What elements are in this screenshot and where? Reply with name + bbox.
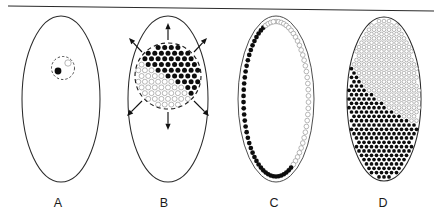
field-dot-open-928 — [405, 84, 409, 88]
field-dot-open-746 — [355, 67, 359, 71]
field-dot-open-790 — [357, 71, 361, 75]
cortical-dot-ring-c — [241, 19, 311, 179]
field-dot-filled-1520 — [355, 145, 359, 149]
field-dot-filled-1613 — [390, 153, 394, 157]
field-dot-filled-1221 — [362, 114, 366, 118]
field-dot-filled-1226 — [387, 114, 391, 118]
cluster-dot-filled-222 — [192, 85, 197, 90]
cluster-dot-filled-84 — [162, 45, 167, 50]
field-dot-filled-1442 — [395, 136, 399, 140]
field-dot-filled-1356 — [395, 127, 399, 131]
panel-d-full-pattern — [347, 17, 421, 181]
field-dot-open-920 — [365, 84, 369, 88]
cluster-dot-open-239 — [182, 91, 187, 96]
field-dot-filled-1611 — [380, 153, 384, 157]
field-dot-open-626 — [397, 54, 401, 58]
cluster-dot-filled-141 — [159, 62, 164, 67]
field-dot-open-324 — [395, 24, 399, 28]
field-dot-filled-1530 — [405, 145, 409, 149]
field-dot-open-887 — [412, 80, 416, 84]
field-dot-filled-1607 — [360, 153, 364, 157]
field-dot-open-623 — [382, 54, 386, 58]
ring-dot-open-22 — [305, 112, 310, 117]
field-dot-open-748 — [365, 67, 369, 71]
field-dot-open-627 — [402, 54, 406, 58]
field-dot-filled-1313 — [392, 123, 396, 127]
ring-dot-open-14 — [303, 63, 308, 68]
field-dot-filled-1354 — [385, 127, 389, 131]
field-dot-filled-1565 — [362, 149, 366, 153]
field-dot-filled-1133 — [352, 106, 356, 110]
field-dot-filled-876 — [357, 80, 361, 84]
field-dot-open-575 — [360, 50, 364, 54]
cluster-dot-open-156 — [136, 68, 141, 73]
field-dot-open-834 — [365, 76, 369, 80]
field-dot-filled-1271 — [400, 119, 404, 123]
ring-dot-filled-68 — [250, 43, 255, 48]
field-dot-filled-1396 — [377, 132, 381, 136]
field-dot-filled-1521 — [360, 145, 364, 149]
field-dot-open-669 — [400, 58, 404, 62]
field-dot-open-535 — [372, 45, 376, 49]
field-dot-filled-1179 — [370, 110, 374, 114]
field-dot-open-1101 — [410, 101, 414, 105]
field-dot-filled-1826 — [377, 175, 381, 179]
field-dot-filled-1358 — [405, 127, 409, 131]
field-dot-filled-1352 — [375, 127, 379, 131]
field-dot-open-540 — [397, 45, 401, 49]
field-dot-filled-1391 — [352, 132, 356, 136]
field-dot-open-969 — [392, 88, 396, 92]
field-dot-filled-1609 — [370, 153, 374, 157]
field-dot-filled-1261 — [350, 119, 354, 123]
ring-dot-open-9 — [295, 39, 300, 44]
field-dot-filled-1135 — [362, 106, 366, 110]
field-dot-open-1059 — [412, 97, 416, 101]
field-dot-filled-1182 — [385, 110, 389, 114]
field-dot-open-1060 — [417, 97, 421, 101]
cluster-dot-open-238 — [175, 91, 180, 96]
cluster-dot-open-218 — [166, 85, 171, 90]
ring-dot-filled-57 — [241, 106, 246, 111]
cluster-dot-open-176 — [139, 74, 144, 79]
arrow-shaft-4 — [131, 101, 142, 112]
field-dot-open-538 — [387, 45, 391, 49]
field-dot-filled-1136 — [367, 106, 371, 110]
cluster-dot-filled-124 — [175, 56, 180, 61]
field-dot-open-756 — [405, 67, 409, 71]
field-dot-open-323 — [390, 24, 394, 28]
field-dot-filled-1311 — [382, 123, 386, 127]
ring-dot-filled-61 — [242, 81, 247, 86]
field-dot-open-799 — [402, 71, 406, 75]
ring-dot-open-28 — [299, 146, 304, 151]
field-dot-filled-1612 — [385, 153, 389, 157]
field-dot-open-753 — [390, 67, 394, 71]
cluster-dot-filled-102 — [152, 51, 157, 56]
cluster-dot-filled-160 — [162, 68, 167, 73]
field-dot-filled-1478 — [357, 140, 361, 144]
seed-dot-open-1 — [65, 60, 71, 66]
cell-membrane-c — [238, 16, 314, 182]
field-dot-filled-1440 — [385, 136, 389, 140]
ring-dot-filled-66 — [247, 53, 252, 58]
cluster-dot-open-196 — [149, 79, 154, 84]
field-dot-filled-1307 — [362, 123, 366, 127]
field-dot-filled-960 — [347, 88, 351, 92]
field-dot-open-1098 — [395, 101, 399, 105]
cluster-dot-filled-240 — [189, 91, 194, 96]
field-dot-filled-1312 — [387, 123, 391, 127]
cluster-dot-open-178 — [152, 74, 157, 79]
field-dot-open-751 — [380, 67, 384, 71]
field-dot-open-453 — [392, 37, 396, 41]
field-dot-filled-1441 — [390, 136, 394, 140]
ring-dot-open-27 — [300, 141, 305, 146]
ring-dot-open-25 — [303, 130, 308, 135]
field-dot-open-622 — [377, 54, 381, 58]
field-dot-filled-918 — [355, 84, 359, 88]
field-dot-open-1014 — [405, 93, 409, 97]
field-dot-open-968 — [387, 88, 391, 92]
field-dot-open-491 — [370, 41, 374, 45]
arrow-head-5 — [165, 124, 170, 130]
field-dot-filled-1696 — [375, 162, 379, 166]
field-dot-filled-1306 — [357, 123, 361, 127]
field-dot-filled-1349 — [360, 127, 364, 131]
